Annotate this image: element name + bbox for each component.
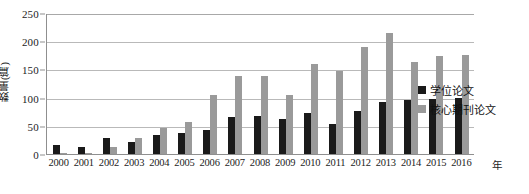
bar xyxy=(228,117,235,154)
x-tick-label: 2016 xyxy=(449,157,474,168)
x-tick-label: 2000 xyxy=(46,157,71,168)
bar-chart: 数量(篇) 050100150200250 200020012002200320… xyxy=(0,0,529,194)
x-tick-label: 2013 xyxy=(373,157,398,168)
bar xyxy=(60,153,67,154)
x-tick-label: 2009 xyxy=(273,157,298,168)
y-tick-mark xyxy=(40,70,45,71)
bar-group xyxy=(273,14,298,154)
bar xyxy=(286,95,293,154)
bar xyxy=(304,113,311,154)
legend: 学位论文核心期刊论文 xyxy=(418,82,496,117)
y-tick-label: 250 xyxy=(22,8,39,20)
x-tick-label: 2002 xyxy=(96,157,121,168)
bar xyxy=(329,124,336,154)
x-tick-label: 2004 xyxy=(147,157,172,168)
x-axis-ticks: 2000200120022003200420052006200720082009… xyxy=(46,157,474,168)
x-tick-label: 2001 xyxy=(71,157,96,168)
bar xyxy=(336,71,343,154)
bar xyxy=(210,95,217,154)
bar xyxy=(135,138,142,154)
x-tick-label: 2015 xyxy=(424,157,449,168)
bar-group xyxy=(374,14,399,154)
bar xyxy=(361,47,368,154)
bar xyxy=(261,76,268,154)
bar-group xyxy=(173,14,198,154)
x-tick-label: 2010 xyxy=(298,157,323,168)
y-tick-mark xyxy=(40,42,45,43)
gray-square-icon xyxy=(418,105,426,113)
bar-group xyxy=(47,14,72,154)
bar xyxy=(279,119,286,154)
bar xyxy=(53,145,60,154)
bar xyxy=(103,138,110,154)
bar xyxy=(78,147,85,154)
y-tick-label: 0 xyxy=(33,149,39,161)
bar xyxy=(311,64,318,154)
x-tick-label: 2014 xyxy=(398,157,423,168)
bar xyxy=(160,128,167,155)
legend-label: 学位论文 xyxy=(430,82,474,98)
bar xyxy=(153,135,160,154)
x-axis-title: 年 xyxy=(492,157,502,172)
plot-area xyxy=(46,14,474,155)
bar xyxy=(235,76,242,154)
bar xyxy=(110,147,117,154)
y-tick-label: 150 xyxy=(22,64,39,76)
legend-label: 核心期刊论文 xyxy=(430,101,496,117)
bar xyxy=(128,142,135,154)
legend-item: 学位论文 xyxy=(418,82,496,98)
bar-group xyxy=(223,14,248,154)
bar-groups xyxy=(47,14,474,154)
bar xyxy=(254,116,261,154)
bar-group xyxy=(72,14,97,154)
bar-group xyxy=(97,14,122,154)
bar xyxy=(404,100,411,154)
bar xyxy=(386,33,393,154)
black-square-icon xyxy=(418,86,426,94)
bar-group xyxy=(298,14,323,154)
bar-group xyxy=(248,14,273,154)
legend-item: 核心期刊论文 xyxy=(418,101,496,117)
y-tick-label: 100 xyxy=(22,93,39,105)
x-tick-label: 2006 xyxy=(197,157,222,168)
bar-group xyxy=(323,14,348,154)
x-tick-label: 2012 xyxy=(348,157,373,168)
y-tick-label: 200 xyxy=(22,36,39,48)
x-tick-label: 2008 xyxy=(247,157,272,168)
x-tick-label: 2011 xyxy=(323,157,348,168)
y-tick-mark xyxy=(40,14,45,15)
x-tick-label: 2007 xyxy=(222,157,247,168)
x-tick-label: 2005 xyxy=(172,157,197,168)
bar xyxy=(85,153,92,154)
y-tick-label: 50 xyxy=(28,121,39,133)
bar xyxy=(203,130,210,154)
bar xyxy=(354,111,361,154)
bar-group xyxy=(148,14,173,154)
bar-group xyxy=(198,14,223,154)
bar-group xyxy=(122,14,147,154)
bar xyxy=(185,122,192,154)
y-tick-mark xyxy=(40,126,45,127)
bar xyxy=(379,102,386,154)
x-tick-label: 2003 xyxy=(122,157,147,168)
y-tick-mark xyxy=(40,98,45,99)
y-tick-mark xyxy=(40,155,45,156)
bar-group xyxy=(349,14,374,154)
bar xyxy=(178,133,185,154)
y-axis-ticks: 050100150200250 xyxy=(0,0,46,155)
